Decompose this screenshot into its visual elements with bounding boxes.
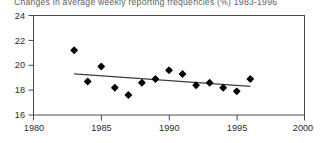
data-point-group <box>71 47 253 98</box>
y-tick-label-18: 18 <box>15 85 25 95</box>
data-point <box>85 78 91 84</box>
x-tick-label-1990: 1990 <box>159 123 179 133</box>
data-point <box>166 67 172 73</box>
data-point <box>207 80 213 86</box>
scatter-plot: 24 22 20 18 16 1980 1985 1990 1995 2000 <box>0 0 329 143</box>
y-tick-label-20: 20 <box>15 60 25 70</box>
x-tick-label-1995: 1995 <box>227 123 247 133</box>
data-point <box>152 76 158 82</box>
data-point <box>234 88 240 94</box>
data-point <box>220 85 226 91</box>
data-point <box>180 71 186 77</box>
x-axis: 1980 1985 1990 1995 2000 <box>24 115 313 133</box>
plot-frame <box>34 16 305 116</box>
y-tick-label-16: 16 <box>15 110 25 120</box>
x-tick-label-1980: 1980 <box>24 123 44 133</box>
x-tick-label-2000: 2000 <box>293 123 313 133</box>
data-point <box>247 76 253 82</box>
data-point <box>125 92 131 98</box>
data-point <box>139 80 145 86</box>
data-point <box>71 47 77 53</box>
chart-figure: Changes in average weekly reporting freq… <box>0 0 329 143</box>
y-tick-label-24: 24 <box>15 11 25 21</box>
y-tick-label-22: 22 <box>15 36 25 46</box>
y-axis: 24 22 20 18 16 <box>15 11 34 121</box>
data-point <box>112 85 118 91</box>
x-tick-label-1985: 1985 <box>91 123 111 133</box>
data-point <box>98 63 104 69</box>
plot-border <box>34 16 305 116</box>
